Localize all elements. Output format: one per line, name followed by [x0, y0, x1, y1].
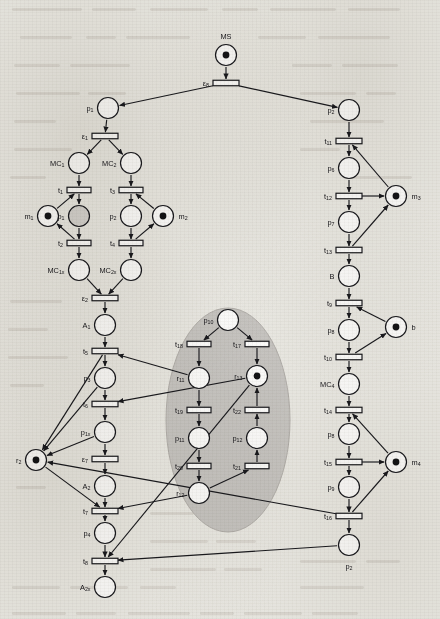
arc-m1-t1 — [57, 194, 74, 209]
place-label-MC4: MC4 — [320, 380, 335, 389]
place-A2x[interactable] — [95, 577, 116, 598]
token — [45, 213, 52, 220]
place-p11[interactable] — [189, 428, 210, 449]
transition-t11[interactable] — [336, 138, 362, 144]
transition-t18[interactable] — [187, 341, 211, 347]
place-label-p5: p2 — [327, 106, 334, 115]
place-label-p4: p4 — [83, 529, 90, 538]
transition-label-t9: t9 — [327, 299, 332, 308]
transition-t1[interactable] — [67, 187, 91, 193]
transition-label-t3: t3 — [110, 186, 115, 195]
transition-t20[interactable] — [187, 463, 211, 469]
place-pl1[interactable] — [69, 206, 90, 227]
transition-label-t12: t12 — [324, 192, 332, 201]
place-MC1x[interactable] — [69, 260, 90, 281]
place-label-m3: m3 — [412, 192, 421, 201]
transition-t3[interactable] — [119, 187, 143, 193]
place-A1[interactable] — [95, 315, 116, 336]
place-r12[interactable] — [189, 483, 210, 504]
place-pl2[interactable] — [121, 206, 142, 227]
place-m3[interactable] — [386, 186, 407, 207]
place-label-p1x: p1x — [81, 428, 91, 437]
transition-t17[interactable] — [245, 341, 269, 347]
place-m4[interactable] — [386, 452, 407, 473]
token — [33, 457, 40, 464]
transition-t13[interactable] — [336, 247, 362, 253]
place-label-p8b: p8 — [327, 430, 334, 439]
place-A2[interactable] — [95, 476, 116, 497]
place-label-m4: m4 — [412, 458, 421, 467]
transition-label-t15: t15 — [324, 458, 332, 467]
transition-t15[interactable] — [336, 459, 362, 465]
place-label-p8: p8 — [327, 326, 334, 335]
token — [393, 193, 400, 200]
arc-e8-p1 — [120, 86, 213, 106]
place-r2[interactable] — [26, 450, 47, 471]
place-p8[interactable] — [339, 320, 360, 341]
place-MS[interactable] — [216, 45, 237, 66]
place-label-B: B — [330, 272, 335, 281]
arc-p3-r2 — [44, 387, 98, 451]
transition-t2[interactable] — [67, 240, 91, 246]
place-p5[interactable] — [339, 100, 360, 121]
transition-t16[interactable] — [336, 513, 362, 519]
place-r11[interactable] — [189, 368, 210, 389]
place-p1x[interactable] — [95, 422, 116, 443]
place-p9[interactable] — [339, 477, 360, 498]
place-r13[interactable] — [247, 366, 268, 387]
transition-label-t5: t5 — [83, 347, 88, 356]
arc-t4-m2 — [136, 224, 154, 239]
shaded-region — [166, 308, 290, 532]
token — [393, 324, 400, 331]
transition-t7[interactable] — [92, 508, 118, 514]
place-b[interactable] — [386, 317, 407, 338]
place-p12[interactable] — [247, 428, 268, 449]
place-p2[interactable] — [339, 535, 360, 556]
transition-e1[interactable] — [92, 133, 118, 139]
transition-t14[interactable] — [336, 407, 362, 413]
transition-e7[interactable] — [92, 456, 118, 462]
place-MC2[interactable] — [121, 153, 142, 174]
transition-t9[interactable] — [336, 300, 362, 306]
transition-t12[interactable] — [336, 193, 362, 199]
place-p8b[interactable] — [339, 424, 360, 445]
place-m2[interactable] — [153, 206, 174, 227]
transition-t6[interactable] — [92, 401, 118, 407]
petri-net-graph: MSp1p2MC1MC2m1p1p2m2MC1xMC2xA1p3p1xr2A2p… — [0, 0, 440, 619]
transition-e8[interactable] — [213, 80, 239, 86]
place-MC1[interactable] — [69, 153, 90, 174]
transition-t21[interactable] — [245, 463, 269, 469]
place-p6[interactable] — [339, 158, 360, 179]
transition-label-t18: t18 — [175, 340, 183, 349]
place-label-MC2: MC2 — [102, 159, 117, 168]
place-p1[interactable] — [98, 98, 119, 119]
transition-t10[interactable] — [336, 354, 362, 360]
place-label-r2: r2 — [16, 456, 21, 465]
place-p10[interactable] — [218, 310, 239, 331]
place-m1[interactable] — [38, 206, 59, 227]
transition-t5[interactable] — [92, 348, 118, 354]
arc-p2-t8 — [118, 546, 337, 560]
place-label-p2: p2 — [345, 562, 352, 571]
transition-label-e7: ε7 — [82, 455, 88, 464]
transition-t22[interactable] — [245, 407, 269, 413]
place-MC2x[interactable] — [121, 260, 142, 281]
place-p7[interactable] — [339, 212, 360, 233]
transition-t19[interactable] — [187, 407, 211, 413]
transition-label-t16: t16 — [324, 512, 332, 521]
transition-t4[interactable] — [119, 240, 143, 246]
arc-p1-e1 — [105, 120, 106, 132]
place-p4[interactable] — [95, 523, 116, 544]
place-B[interactable] — [339, 266, 360, 287]
transition-label-t10: t10 — [324, 353, 332, 362]
transition-label-t1: t1 — [58, 186, 63, 195]
place-label-MC2x: MC2x — [99, 266, 116, 275]
transition-label-t11: t11 — [324, 137, 332, 146]
arc-t10-b — [355, 333, 386, 353]
place-p3[interactable] — [95, 368, 116, 389]
transition-label-t7: t7 — [83, 507, 88, 516]
place-label-p1: p1 — [86, 104, 93, 113]
transition-t8[interactable] — [92, 558, 118, 564]
place-MC4[interactable] — [339, 374, 360, 395]
transition-e2[interactable] — [92, 295, 118, 301]
